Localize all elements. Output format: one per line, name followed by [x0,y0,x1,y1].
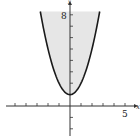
x-tick-label-5: 5 [122,109,128,119]
x-axis-label: x [136,103,140,111]
y-tick-label-8: 8 [61,11,67,21]
plot-area: 5 8 x y [0,0,140,137]
